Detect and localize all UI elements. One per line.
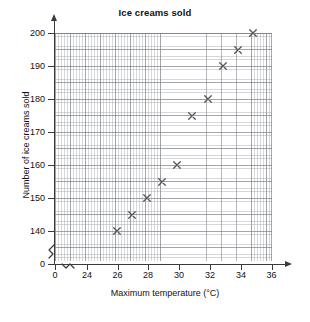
- x-tick-label-28: 28: [143, 270, 153, 280]
- y-tick-mark: [48, 264, 54, 265]
- chart-title: Ice creams sold: [0, 7, 310, 18]
- y-axis-line: [54, 20, 55, 265]
- y-tick-label-150: 150: [30, 193, 45, 203]
- x-tick-label-0: 0: [52, 270, 57, 280]
- y-tick-label-140: 140: [30, 226, 45, 236]
- y-axis-title: Number of ice creams sold: [21, 45, 31, 245]
- x-axis-arrow-icon: [285, 261, 292, 267]
- y-tick-mark: [48, 165, 54, 166]
- x-axis-title: Maximum temperature (°C): [40, 288, 290, 298]
- scatter-chart: Ice creams sold 200 190 180 170 160 150 …: [0, 0, 310, 322]
- y-tick-label-170: 170: [30, 127, 45, 137]
- y-tick-mark: [48, 231, 54, 232]
- y-tick-label-200: 200: [30, 28, 45, 38]
- x-axis-line: [54, 264, 290, 265]
- x-tick-label-30: 30: [174, 270, 184, 280]
- y-axis-arrow-icon: [51, 14, 57, 21]
- y-tick-label-0: 0: [40, 259, 45, 269]
- y-tick-mark: [48, 132, 54, 133]
- x-tick-label-34: 34: [236, 270, 246, 280]
- plot-area: [55, 33, 272, 261]
- y-tick-label-180: 180: [30, 94, 45, 104]
- x-tick-label-26: 26: [112, 270, 122, 280]
- x-axis-break-icon: [61, 258, 79, 276]
- y-tick-mark: [48, 33, 54, 34]
- x-tick-label-24: 24: [82, 270, 92, 280]
- y-tick-mark: [48, 66, 54, 67]
- y-tick-mark: [48, 99, 54, 100]
- y-tick-label-190: 190: [30, 61, 45, 71]
- y-axis-break-icon: [47, 241, 61, 263]
- x-tick-label-36: 36: [266, 270, 276, 280]
- y-tick-label-160: 160: [30, 160, 45, 170]
- x-tick-label-32: 32: [205, 270, 215, 280]
- y-tick-mark: [48, 198, 54, 199]
